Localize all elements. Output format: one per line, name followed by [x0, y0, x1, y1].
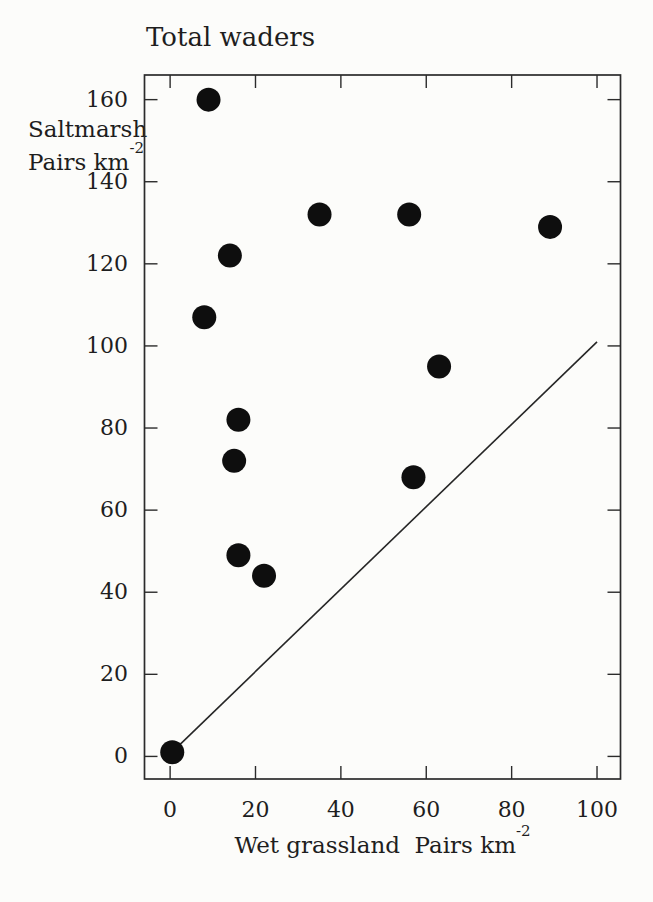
y-tick-label: 140	[48, 169, 128, 195]
y-tick-label: 160	[48, 87, 128, 113]
data-point	[397, 203, 421, 227]
x-tick-label: 0	[125, 797, 215, 823]
scatter-plot-figure: Total waders SaltmarshPairs km-2 Wet gra…	[0, 0, 653, 902]
data-point	[192, 305, 216, 329]
data-point	[218, 244, 242, 268]
y-tick-label: 0	[48, 743, 128, 769]
x-axis-exponent: -2	[516, 822, 531, 840]
data-point	[226, 543, 250, 567]
y-tick-label: 40	[48, 579, 128, 605]
data-point	[226, 408, 250, 432]
y-tick-label: 100	[48, 333, 128, 359]
y-tick-label: 120	[48, 251, 128, 277]
x-tick-label: 60	[381, 797, 471, 823]
data-point	[252, 564, 276, 588]
x-tick-label: 20	[210, 797, 300, 823]
plot-frame	[145, 75, 621, 779]
x-tick-label: 80	[467, 797, 557, 823]
data-point	[197, 88, 221, 112]
data-point	[401, 465, 425, 489]
data-point	[222, 449, 246, 473]
x-axis-label-text: Wet grassland Pairs km	[234, 832, 516, 858]
data-point	[427, 354, 451, 378]
data-point	[308, 203, 332, 227]
x-tick-label: 40	[296, 797, 386, 823]
x-axis-label: Wet grassland Pairs km-2	[56, 830, 653, 858]
y-tick-label: 80	[48, 415, 128, 441]
y-tick-label: 20	[48, 661, 128, 687]
data-point	[160, 740, 184, 764]
y-tick-label: 60	[48, 497, 128, 523]
x-tick-label: 100	[552, 797, 642, 823]
data-point	[538, 215, 562, 239]
